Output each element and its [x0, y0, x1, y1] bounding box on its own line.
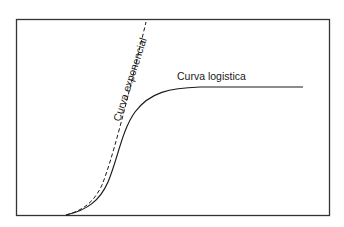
logistic-curve [66, 87, 303, 215]
plot-frame [17, 20, 330, 216]
growth-curves-diagram: Curva exponencial Curva logistica [0, 0, 344, 227]
exponential-label: Curva exponencial [110, 36, 148, 122]
logistic-label: Curva logistica [177, 70, 246, 82]
